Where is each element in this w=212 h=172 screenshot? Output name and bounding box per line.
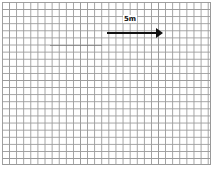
- arrow-label: 5m: [123, 15, 137, 23]
- arrow-shaft: [107, 32, 157, 34]
- reference-line: [50, 45, 102, 46]
- arrow-right-icon: [156, 28, 163, 38]
- grid-background: [2, 2, 211, 165]
